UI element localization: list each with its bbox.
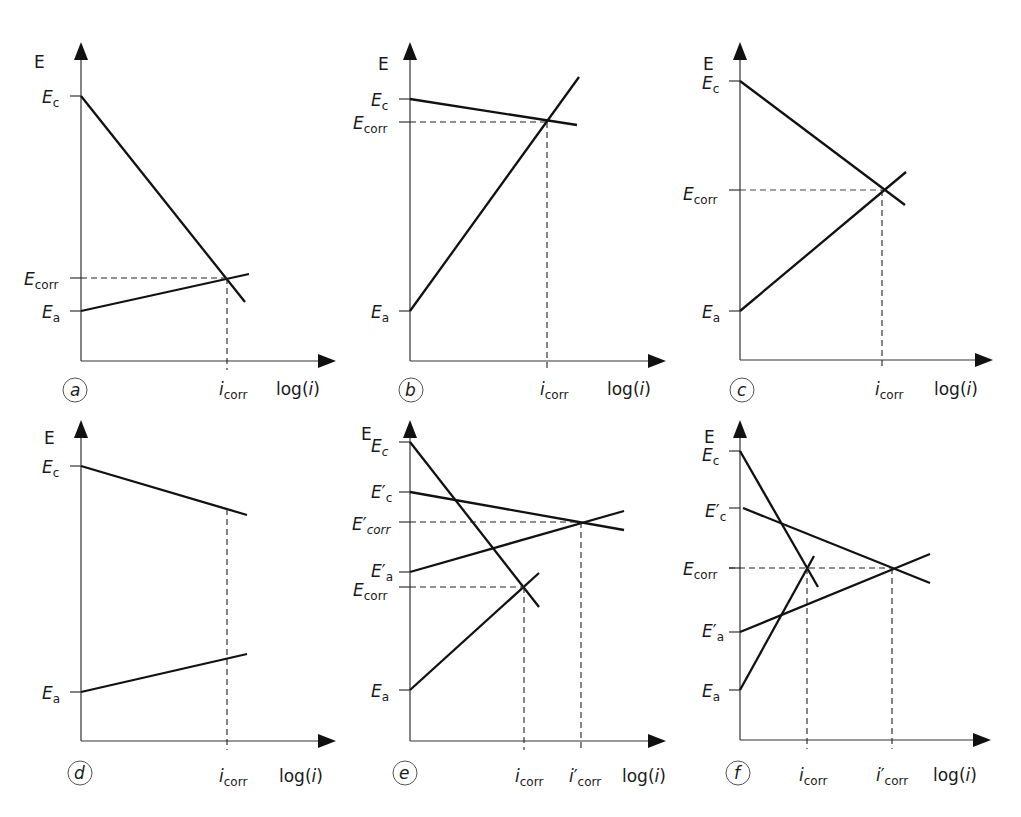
label-ec-prime: E′c (705, 501, 726, 524)
cathodic-line (740, 451, 818, 587)
label-ecorr-prime: E′corr (352, 514, 391, 537)
evans-diagrams-figure: E Ec Ecorr Ea icorr log(i) a E Ec Ecorr … (0, 0, 1021, 817)
x-axis-arrow-icon (648, 354, 666, 368)
label-ec: Ec (42, 457, 59, 480)
label-ec: Ec (702, 73, 719, 96)
label-icorr: icorr (540, 379, 568, 402)
cathodic-line (410, 442, 539, 607)
panel-a: E Ec Ecorr Ea icorr log(i) a (24, 42, 336, 402)
label-ecorr: Ecorr (683, 559, 717, 582)
anodic-line (81, 654, 247, 692)
anodic-line (410, 573, 539, 690)
label-ec: Ec (42, 87, 59, 110)
label-logi: log(i) (933, 765, 977, 785)
panel-f: E Ec E′c Ecorr E′a Ea icorr i′corr log(i… (683, 420, 991, 788)
anodic-line-prime (740, 554, 930, 632)
label-ecorr: Ecorr (353, 113, 387, 136)
label-icorr: icorr (219, 766, 247, 789)
label-icorr: icorr (219, 379, 247, 402)
anodic-line (740, 172, 906, 311)
y-axis-arrow-icon (733, 420, 747, 438)
panel-c: E Ec Ecorr Ea icorr log(i) c (683, 42, 993, 402)
label-icorr-prime: i′corr (569, 766, 601, 789)
label-logi: log(i) (622, 766, 666, 786)
y-axis-arrow-icon (733, 42, 747, 60)
label-ea-prime: E′a (371, 561, 393, 584)
panel-e: E Ec E′c E′corr E′a Ecorr Ea icorr i′cor… (352, 420, 666, 789)
label-ea: Ea (371, 302, 389, 325)
label-icorr: icorr (799, 765, 827, 788)
label-ea: Ea (371, 681, 389, 704)
label-logi: log(i) (607, 379, 651, 399)
y-axis-label: E (704, 427, 715, 447)
label-ec: Ec (371, 90, 388, 113)
x-axis-arrow-icon (973, 733, 991, 747)
panel-d: E Ec Ea icorr log(i) d (42, 420, 336, 789)
anodic-line (81, 274, 249, 311)
y-axis-arrow-icon (74, 420, 88, 438)
label-ec-prime: E′c (371, 482, 392, 505)
label-logi: log(i) (934, 379, 978, 399)
x-axis-arrow-icon (975, 353, 993, 367)
cathodic-line (410, 99, 577, 125)
panel-b: E Ec Ecorr Ea icorr log(i) b (353, 42, 666, 402)
cathodic-line (740, 81, 905, 205)
x-axis-arrow-icon (318, 354, 336, 368)
panel-label-b: b (405, 380, 416, 400)
panel-label-a: a (70, 380, 80, 400)
panel-label-d: d (74, 763, 85, 783)
label-ec: Ec (702, 445, 719, 468)
cathodic-line (81, 466, 247, 515)
y-axis-label: E (703, 54, 714, 74)
label-ea: Ea (702, 302, 720, 325)
label-icorr: icorr (515, 766, 543, 789)
x-axis-arrow-icon (648, 734, 666, 748)
y-axis-label: E (44, 428, 55, 448)
panel-label-c: c (737, 380, 747, 400)
y-axis-arrow-icon (74, 42, 88, 60)
y-axis-label: E (378, 54, 389, 74)
label-ea: Ea (42, 683, 60, 706)
label-ecorr: Ecorr (683, 184, 717, 207)
label-icorr-prime: i′corr (876, 765, 908, 788)
label-logi: log(i) (279, 766, 323, 786)
y-axis-arrow-icon (403, 420, 417, 438)
y-axis-label: E (34, 52, 45, 72)
label-ec: Ec (371, 436, 389, 459)
panel-label-e: e (399, 763, 409, 783)
anodic-line (740, 556, 814, 690)
panel-label-f: f (734, 763, 743, 783)
label-ea: Ea (702, 681, 720, 704)
label-logi: log(i) (276, 379, 320, 399)
label-ea: Ea (42, 302, 60, 325)
label-ea-prime: E′a (702, 621, 724, 644)
label-ecorr: Ecorr (24, 269, 58, 292)
cathodic-line-prime (743, 508, 930, 583)
y-axis-arrow-icon (403, 42, 417, 60)
label-ecorr: Ecorr (353, 580, 387, 603)
cathodic-line-prime (410, 492, 624, 530)
anodic-line-prime (410, 511, 624, 572)
label-icorr: icorr (875, 379, 903, 402)
cathodic-line (81, 96, 245, 302)
x-axis-arrow-icon (318, 734, 336, 748)
